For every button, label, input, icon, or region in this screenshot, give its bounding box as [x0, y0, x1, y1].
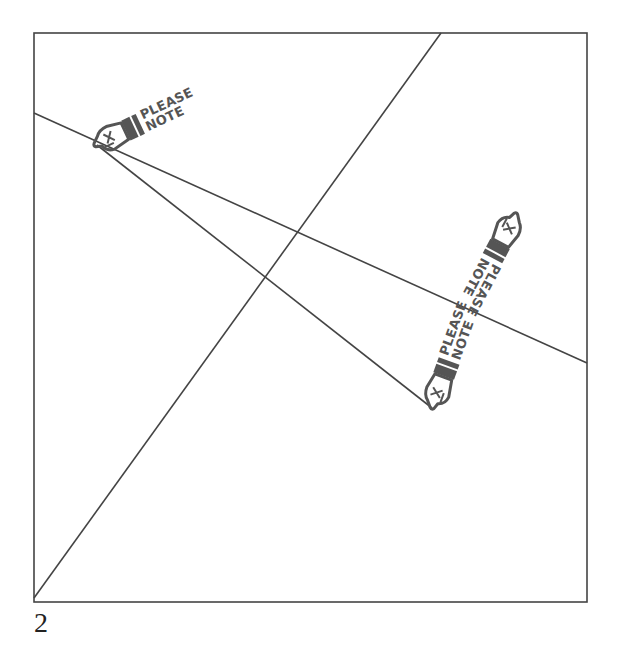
- geometry-figure: PLEASE NOTE PLEASE NOTE PLEASE NOTE: [0, 0, 626, 665]
- please-note-stamp-1: PLEASE NOTE: [88, 85, 201, 158]
- line-c: [97, 145, 432, 408]
- pointing-hand-icon: [420, 357, 460, 413]
- line-b: [34, 113, 587, 363]
- line-a: [34, 33, 441, 598]
- diagram-frame: [34, 33, 587, 602]
- pointing-hand-icon: [482, 207, 527, 263]
- page-number: 2: [34, 609, 48, 637]
